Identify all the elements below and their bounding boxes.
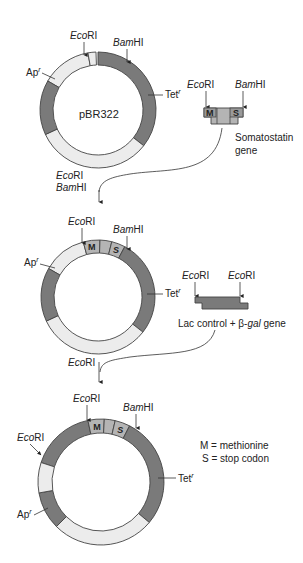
fragment1-name-line2: gene <box>235 145 258 156</box>
fragment1-bamhi-label: BamHI <box>235 79 266 90</box>
somatostatin-gene-fragment: EcoRI BamHI M S Somatostatin gene <box>187 79 293 156</box>
ring2-ampr-segment <box>41 269 60 322</box>
lac-insert-segment <box>41 420 91 466</box>
fragment2-body <box>195 297 248 309</box>
ring3-s-label: S <box>117 425 123 435</box>
ring2-s-label: S <box>113 245 119 255</box>
stage3-ecori-top-label: EcoRI <box>73 393 100 404</box>
stage3-plasmid: MS <box>38 419 164 545</box>
ring2-light-top-segment <box>49 242 87 275</box>
stage3-tetr-label: Tetr <box>178 472 194 484</box>
ring2-light-bottom-segment <box>46 316 143 354</box>
ring3-m-label: M <box>93 422 101 432</box>
stage3-ecori-left-arrow <box>30 444 41 455</box>
stage1-tetr-label: Tetr <box>165 88 181 100</box>
stage2-bamhi-label: BamHI <box>113 224 144 235</box>
fragment2-name: Lac control + β-gal gene <box>178 318 286 329</box>
stage2-plasmid: MS <box>41 240 155 354</box>
stage3-bamhi-label: BamHI <box>123 402 154 413</box>
stage2-tetr-label: Tetr <box>165 287 181 299</box>
stage1-ampr-label: Apr <box>26 66 41 78</box>
ring3-light-bottom-segment <box>56 513 149 545</box>
fragment2-left-ecori-label: EcoRI <box>182 270 209 281</box>
tetr-segment <box>98 52 156 146</box>
transition2-line1: EcoRI <box>68 357 95 368</box>
cloning-diagram: pBR322 EcoRI BamHI Apr Tetr EcoRI BamHI … <box>0 0 303 563</box>
fragment1-name-line1: Somatostatin <box>235 132 293 143</box>
stage1-ecori-label: EcoRI <box>70 30 97 41</box>
stage3-ecori-left-label: EcoRI <box>17 432 44 443</box>
legend-line2: S = stop codon <box>202 453 269 464</box>
ring3-ampr-segment <box>39 491 66 527</box>
legend-line1: M = methionine <box>200 440 269 451</box>
fragment1-s-label: S <box>233 108 239 118</box>
plasmid-name-label: pBR322 <box>79 108 119 120</box>
fragment1-ecori-label: EcoRI <box>187 79 214 90</box>
ampr-segment <box>40 81 59 135</box>
ring2-tetr-segment <box>119 247 155 332</box>
stage2-ecori-label: EcoRI <box>68 216 95 227</box>
stage2-ampr-label: Apr <box>24 256 39 268</box>
transition1-line1: EcoRI <box>56 170 83 181</box>
fragment2-right-ecori-label: EcoRI <box>228 270 255 281</box>
ring3-tetr-segment <box>123 426 164 523</box>
ring3-light-left-segment <box>38 463 54 493</box>
stage1-bamhi-label: BamHI <box>113 37 144 48</box>
lac-gene-fragment: EcoRI EcoRI Lac control + β-gal gene <box>178 270 286 329</box>
fragment1-m-label: M <box>206 108 214 118</box>
ring1-light-bottom-segment <box>45 129 143 168</box>
ring1-light-top-segment <box>48 53 90 88</box>
stage3-ampr-label: Apr <box>17 508 32 520</box>
ring2-m-label: M <box>88 242 96 252</box>
transition1-line2: BamHI <box>56 182 87 193</box>
